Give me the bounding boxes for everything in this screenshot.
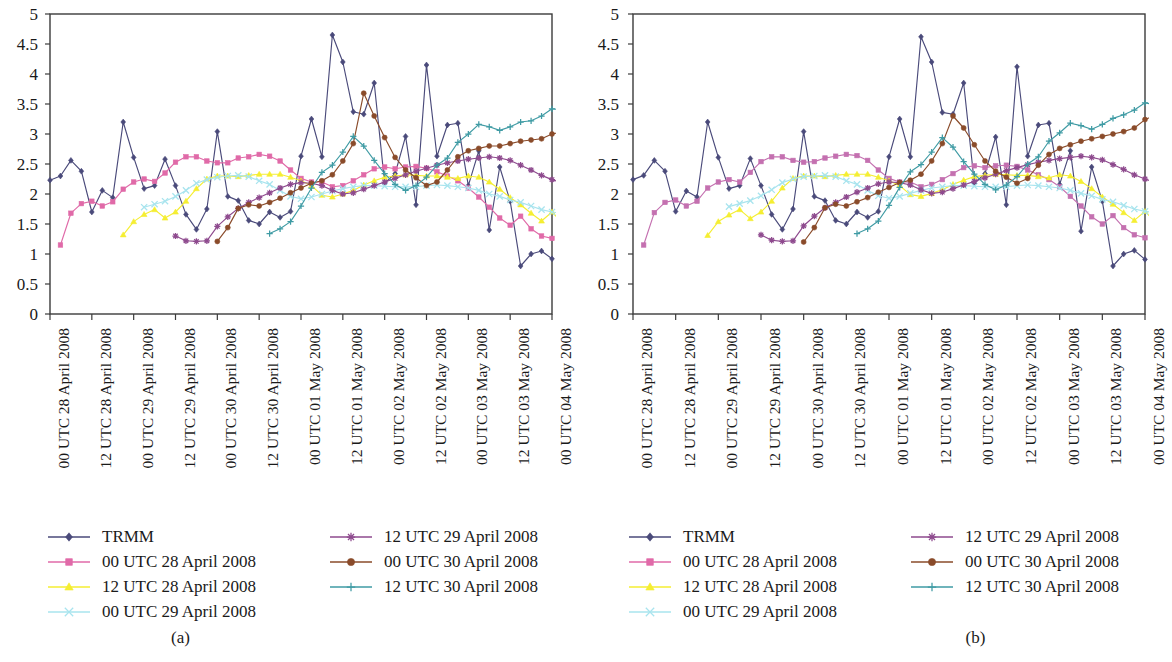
legend-b: TRMM00 UTC 28 April 200812 UTC 28 April …: [619, 524, 1159, 624]
legend-column-left-a: TRMM00 UTC 28 April 200812 UTC 28 April …: [46, 524, 256, 624]
y-tick-label: 3.5: [598, 96, 619, 113]
legend-marker-star-icon: [909, 529, 955, 545]
legend-label: 12 UTC 28 April 2008: [683, 578, 837, 595]
legend-label: 00 UTC 30 April 2008: [965, 553, 1119, 570]
x-tick-label: 00 UTC 02 May 2008: [980, 328, 996, 465]
x-tick-label: 00 UTC 28 April 2008: [56, 328, 72, 468]
legend-marker-circle-icon: [909, 554, 955, 570]
legend-item[interactable]: 00 UTC 28 April 2008: [46, 549, 256, 574]
x-tick-label: 12 UTC 30 April 2008: [265, 328, 281, 468]
legend-column-left-b: TRMM00 UTC 28 April 200812 UTC 28 April …: [627, 524, 837, 624]
chart-svg-a: [44, 8, 556, 324]
legend-item[interactable]: 12 UTC 30 April 2008: [328, 574, 538, 599]
legend-marker-diamond-icon: [627, 529, 673, 545]
panel-caption-b: (b): [685, 628, 1172, 648]
legend-marker-star-icon: [328, 529, 374, 545]
y-tick-label: 0.5: [17, 276, 38, 293]
chart-svg-b: [627, 8, 1149, 324]
panel-caption-a: (a): [0, 628, 471, 648]
y-tick-label: 0: [30, 306, 39, 323]
legend-label: 12 UTC 28 April 2008: [102, 578, 256, 595]
x-tick-label: 00 UTC 30 April 2008: [223, 328, 239, 468]
y-tick-label: 3.5: [17, 96, 38, 113]
x-tick-label: 12 UTC 03 May 2008: [516, 328, 532, 465]
y-tick-label: 4: [30, 66, 39, 83]
x-tick-label: 00 UTC 04 May 2008: [558, 328, 574, 465]
y-tick-label: 1: [30, 246, 39, 263]
x-tick-label: 12 UTC 02 May 2008: [1023, 328, 1039, 465]
x-tick-label: 00 UTC 02 May 2008: [391, 328, 407, 465]
legend-label: 12 UTC 29 April 2008: [384, 528, 538, 545]
x-tick-label: 00 UTC 30 April 2008: [810, 328, 826, 468]
x-tick-label: 00 UTC 29 April 2008: [140, 328, 156, 468]
x-axis-labels-b: 00 UTC 28 April 200812 UTC 28 April 2008…: [627, 328, 1149, 518]
legend-item[interactable]: 00 UTC 29 April 2008: [46, 599, 256, 624]
legend-item[interactable]: 12 UTC 28 April 2008: [46, 574, 256, 599]
y-tick-label: 4: [611, 66, 620, 83]
legend-label: 00 UTC 29 April 2008: [683, 603, 837, 620]
y-tick-label: 4.5: [17, 36, 38, 53]
plot-area-a: [44, 8, 556, 324]
y-tick-label: 5: [30, 6, 39, 23]
x-tick-label: 12 UTC 03 May 2008: [1108, 328, 1124, 465]
y-tick-label: 3: [611, 126, 620, 143]
legend-label: 12 UTC 30 April 2008: [965, 578, 1119, 595]
x-tick-label: 00 UTC 29 April 2008: [724, 328, 740, 468]
legend-marker-square-icon: [46, 554, 92, 570]
y-tick-label: 0: [611, 306, 620, 323]
y-axis-labels-a: 00.511.522.533.544.55: [0, 0, 44, 330]
legend-label: 12 UTC 29 April 2008: [965, 528, 1119, 545]
y-tick-label: 2.5: [17, 156, 38, 173]
x-tick-label: 12 UTC 29 April 2008: [182, 328, 198, 468]
y-tick-label: 2: [611, 186, 620, 203]
legend-marker-plus-icon: [909, 579, 955, 595]
x-tick-label: 12 UTC 01 May 2008: [349, 328, 365, 465]
y-tick-label: 3: [30, 126, 39, 143]
legend-item[interactable]: 12 UTC 29 April 2008: [909, 524, 1119, 549]
x-axis-labels-a: 00 UTC 28 April 200812 UTC 28 April 2008…: [44, 328, 556, 518]
legend-label: 00 UTC 28 April 2008: [102, 553, 256, 570]
legend-item[interactable]: 12 UTC 28 April 2008: [627, 574, 837, 599]
legend-label: 12 UTC 30 April 2008: [384, 578, 538, 595]
x-tick-label: 12 UTC 30 April 2008: [852, 328, 868, 468]
x-tick-label: 12 UTC 29 April 2008: [767, 328, 783, 468]
y-tick-label: 1.5: [17, 216, 38, 233]
legend-a: TRMM00 UTC 28 April 200812 UTC 28 April …: [38, 524, 578, 624]
x-tick-label: 00 UTC 04 May 2008: [1151, 328, 1167, 465]
y-tick-label: 4.5: [598, 36, 619, 53]
panel-b: 00.511.522.533.544.55 00 UTC 28 April 20…: [581, 0, 1162, 662]
legend-item[interactable]: 00 UTC 30 April 2008: [909, 549, 1119, 574]
legend-label: TRMM: [102, 528, 154, 545]
legend-marker-plus-icon: [328, 579, 374, 595]
legend-item[interactable]: 12 UTC 29 April 2008: [328, 524, 538, 549]
legend-marker-triangle-icon: [46, 579, 92, 595]
legend-label: 00 UTC 29 April 2008: [102, 603, 256, 620]
y-tick-label: 1.5: [598, 216, 619, 233]
legend-item[interactable]: 00 UTC 28 April 2008: [627, 549, 837, 574]
x-tick-label: 00 UTC 03 May 2008: [1066, 328, 1082, 465]
y-tick-label: 2.5: [598, 156, 619, 173]
x-tick-label: 00 UTC 01 May 2008: [307, 328, 323, 465]
legend-label: 00 UTC 30 April 2008: [384, 553, 538, 570]
legend-item[interactable]: 12 UTC 30 April 2008: [909, 574, 1119, 599]
legend-item[interactable]: TRMM: [46, 524, 256, 549]
legend-column-right-b: 12 UTC 29 April 200800 UTC 30 April 2008…: [909, 524, 1119, 599]
y-tick-label: 0.5: [598, 276, 619, 293]
x-tick-label: 00 UTC 03 May 2008: [474, 328, 490, 465]
legend-marker-triangle-icon: [627, 579, 673, 595]
legend-item[interactable]: TRMM: [627, 524, 837, 549]
legend-item[interactable]: 00 UTC 29 April 2008: [627, 599, 837, 624]
x-tick-label: 00 UTC 01 May 2008: [895, 328, 911, 465]
legend-label: 00 UTC 28 April 2008: [683, 553, 837, 570]
legend-label: TRMM: [683, 528, 735, 545]
legend-column-right-a: 12 UTC 29 April 200800 UTC 30 April 2008…: [328, 524, 538, 599]
x-tick-label: 00 UTC 28 April 2008: [639, 328, 655, 468]
y-axis-labels-b: 00.511.522.533.544.55: [581, 0, 625, 330]
x-tick-label: 12 UTC 01 May 2008: [938, 328, 954, 465]
legend-marker-square-icon: [627, 554, 673, 570]
legend-item[interactable]: 00 UTC 30 April 2008: [328, 549, 538, 574]
x-tick-label: 12 UTC 02 May 2008: [433, 328, 449, 465]
legend-marker-circle-icon: [328, 554, 374, 570]
legend-marker-xmark-icon: [46, 604, 92, 620]
